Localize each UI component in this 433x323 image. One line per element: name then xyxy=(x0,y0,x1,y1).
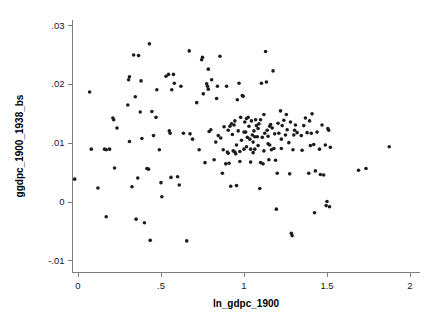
data-point xyxy=(246,116,250,120)
data-point xyxy=(328,205,332,209)
y-tick-label: .02 xyxy=(51,78,64,89)
data-point xyxy=(182,131,186,135)
data-point xyxy=(152,134,156,138)
data-point xyxy=(236,129,240,133)
data-point xyxy=(104,215,108,219)
data-point xyxy=(226,129,230,133)
data-point xyxy=(289,120,293,124)
data-point xyxy=(155,88,159,92)
data-point xyxy=(276,121,280,125)
y-tick-label: .01 xyxy=(51,137,64,148)
data-point xyxy=(258,187,262,191)
data-point xyxy=(115,126,119,130)
data-point xyxy=(280,124,284,128)
data-point xyxy=(288,172,292,176)
x-tick-label: .5 xyxy=(157,280,165,291)
data-point xyxy=(210,78,214,82)
x-tick-label: 1 xyxy=(241,280,246,291)
data-point xyxy=(185,239,189,243)
data-point xyxy=(263,131,267,135)
data-point xyxy=(112,118,116,122)
data-point xyxy=(304,116,308,120)
data-point xyxy=(265,80,269,84)
data-point xyxy=(314,169,318,173)
data-point xyxy=(207,67,211,71)
data-point xyxy=(251,140,255,144)
data-point xyxy=(287,141,291,145)
data-point xyxy=(253,147,257,151)
data-point xyxy=(243,120,247,124)
data-point xyxy=(277,131,281,135)
data-point xyxy=(312,143,316,147)
data-point xyxy=(168,131,172,135)
data-point xyxy=(176,175,180,179)
data-point xyxy=(229,184,233,188)
data-point xyxy=(222,125,226,129)
data-point xyxy=(140,137,144,141)
data-point xyxy=(271,69,275,73)
data-point xyxy=(264,50,268,54)
data-point xyxy=(236,98,240,102)
data-point xyxy=(108,147,112,151)
data-point xyxy=(234,152,238,156)
data-point xyxy=(255,135,259,139)
data-point xyxy=(250,119,254,123)
data-point xyxy=(235,184,239,188)
plot-background xyxy=(0,0,433,323)
data-point xyxy=(148,42,152,46)
data-point xyxy=(137,54,141,58)
data-point xyxy=(272,147,276,151)
data-point xyxy=(280,137,284,141)
data-point xyxy=(308,119,312,123)
data-point xyxy=(73,177,77,181)
data-point xyxy=(113,166,117,170)
plot-canvas: -.010.01.02.03 0.511.52 ln_gdpc_1900 ggd… xyxy=(0,0,433,323)
data-point xyxy=(88,90,92,94)
data-point xyxy=(261,162,265,166)
data-point xyxy=(237,81,241,85)
data-point xyxy=(128,140,132,144)
data-point xyxy=(275,171,279,175)
data-point xyxy=(248,137,252,141)
data-point xyxy=(138,110,142,114)
data-point xyxy=(299,134,303,138)
data-point xyxy=(160,195,164,199)
x-tick-label: 1.5 xyxy=(320,280,333,291)
data-point xyxy=(89,147,93,151)
data-point xyxy=(128,75,132,79)
data-point xyxy=(231,133,235,137)
data-point xyxy=(245,145,249,149)
data-point xyxy=(387,145,391,149)
data-point xyxy=(143,221,147,225)
data-point xyxy=(233,119,237,123)
data-point xyxy=(133,95,137,99)
data-point xyxy=(187,49,191,53)
data-point xyxy=(292,133,296,137)
data-point xyxy=(305,131,309,135)
data-point xyxy=(197,148,201,152)
data-point xyxy=(177,183,181,187)
data-point xyxy=(215,97,219,101)
data-point xyxy=(221,148,225,152)
data-point xyxy=(318,147,322,151)
y-tick-label: -.01 xyxy=(48,255,64,266)
data-point xyxy=(235,143,239,147)
data-point xyxy=(239,116,243,120)
data-point xyxy=(327,129,331,133)
data-point xyxy=(329,146,333,150)
data-point xyxy=(273,132,277,136)
data-point xyxy=(201,56,205,60)
data-point xyxy=(147,167,151,171)
y-tick-label: .03 xyxy=(51,20,64,31)
data-point xyxy=(167,73,171,77)
data-point xyxy=(319,173,323,177)
data-point xyxy=(139,79,143,83)
data-point xyxy=(265,129,269,133)
data-point xyxy=(172,73,176,77)
data-point xyxy=(150,110,154,114)
data-point xyxy=(320,123,324,127)
data-point xyxy=(224,162,228,166)
data-point xyxy=(241,94,245,98)
data-point xyxy=(285,128,289,132)
y-tick-label: 0 xyxy=(59,196,64,207)
